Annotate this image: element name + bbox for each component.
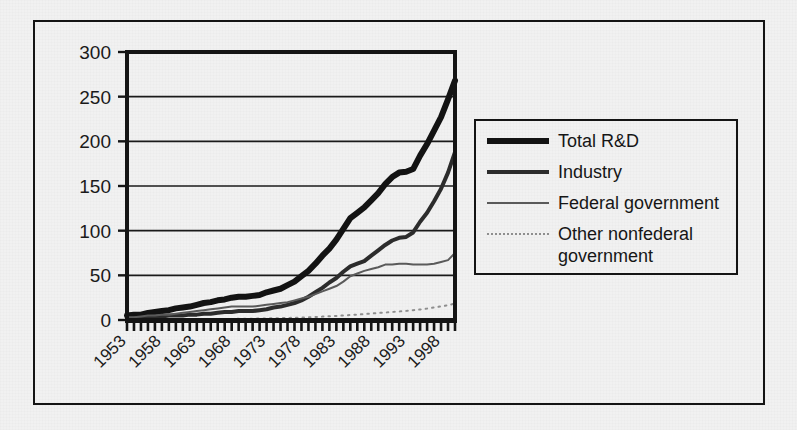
y-tick-label: 50 xyxy=(90,265,111,286)
x-tick-label: 1993 xyxy=(369,331,409,371)
gridlines xyxy=(127,97,455,276)
series-line-total-r-d xyxy=(127,81,455,316)
y-tick-label: 150 xyxy=(79,176,111,197)
y-axis-tick-labels: 050100150200250300 xyxy=(79,42,111,331)
legend-label-total-rd: Total R&D xyxy=(558,130,639,152)
x-tick-label: 1958 xyxy=(125,331,165,371)
legend-item-federal-government: Federal government xyxy=(476,192,736,223)
x-tick-label: 1968 xyxy=(194,331,234,371)
x-tick-label: 1998 xyxy=(404,331,444,371)
legend-item-other-nonfederal-government: Other nonfederal government xyxy=(476,223,736,275)
data-series-group xyxy=(127,81,455,320)
y-tick-label: 0 xyxy=(100,310,111,331)
chart-legend: Total R&D Industry Federal government Ot… xyxy=(474,119,738,275)
thin-solid-line-icon xyxy=(487,192,549,214)
legend-label-industry: Industry xyxy=(558,161,622,183)
y-tick-label: 100 xyxy=(79,221,111,242)
legend-label-federal-government: Federal government xyxy=(558,192,719,214)
x-tick-label: 1973 xyxy=(229,331,269,371)
x-tick-label: 1988 xyxy=(334,331,374,371)
thick-solid-line-icon xyxy=(487,130,549,152)
x-axis-tick-labels: 1953195819631968197319781983198819931998 xyxy=(90,331,444,371)
x-axis-minor-tick-marks xyxy=(125,322,457,332)
x-tick-label: 1953 xyxy=(90,331,130,371)
y-tick-label: 250 xyxy=(79,87,111,108)
y-tick-label: 200 xyxy=(79,131,111,152)
dotted-line-icon xyxy=(487,223,549,245)
legend-item-industry: Industry xyxy=(476,161,736,192)
medium-solid-line-icon xyxy=(487,161,549,183)
series-line-industry xyxy=(127,152,455,318)
x-tick-label: 1978 xyxy=(264,331,304,371)
legend-label-other-nonfederal-government: Other nonfederal government xyxy=(558,223,693,267)
x-tick-label: 1983 xyxy=(299,331,339,371)
x-tick-label: 1963 xyxy=(159,331,199,371)
legend-item-total-rd: Total R&D xyxy=(476,130,736,161)
y-tick-label: 300 xyxy=(79,42,111,63)
